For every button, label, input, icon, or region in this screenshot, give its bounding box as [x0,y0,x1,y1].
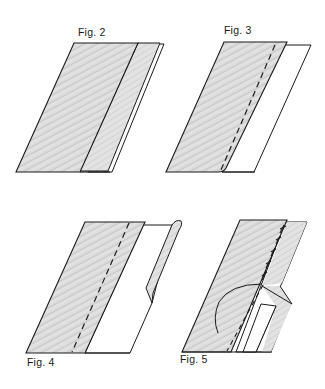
fig3-label: Fig. 3 [224,24,251,36]
figure-4 [26,221,182,354]
fig4-label: Fig. 4 [27,356,54,368]
fig5-label: Fig. 5 [180,353,207,365]
figure-5 [182,220,307,352]
diagram-canvas: Fig. 2 Fig. 3 Fig. 4 Fig. 5 [0,0,325,389]
figure-2 [16,43,164,172]
illustrations [0,0,325,389]
figure-3 [166,42,311,172]
fig2-label: Fig. 2 [78,26,105,38]
